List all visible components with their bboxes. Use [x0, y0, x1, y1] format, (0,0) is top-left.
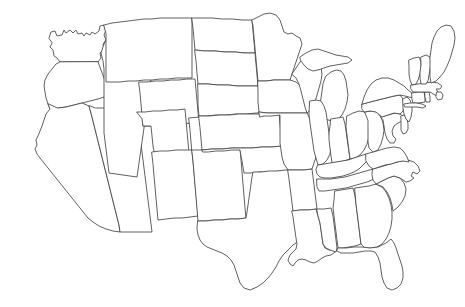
state-north-dakota: North Dakota: [192, 18, 255, 53]
state-rhode-island: Rhode Island: [425, 92, 430, 102]
state-ohio: Ohio: [346, 111, 370, 159]
state-maryland: Maryland: [381, 113, 404, 143]
state-new-mexico: New Mexico: [192, 148, 246, 221]
us-outline-map: WashingtonOregonCaliforniaNevadaIdahoMon…: [0, 0, 465, 307]
state-vermont: Vermont: [409, 57, 421, 85]
state-south-dakota: South Dakota: [195, 50, 258, 86]
state-washington: Washington: [49, 25, 106, 62]
state-michigan-upper: Michigan (Upper Peninsula): [300, 49, 352, 71]
state-kansas: Kansas: [199, 113, 282, 150]
state-long-island: Long Island: [404, 103, 426, 108]
states-layer: WashingtonOregonCaliforniaNevadaIdahoMon…: [35, 13, 455, 290]
state-connecticut: Connecticut: [412, 92, 425, 103]
state-georgia: Georgia: [355, 184, 392, 248]
state-oregon: Oregon: [44, 62, 108, 109]
state-cape-cod: Cape Cod: [436, 92, 443, 100]
state-montana: Montana: [104, 18, 192, 82]
state-arkansas: Arkansas: [288, 169, 317, 211]
state-new-hampshire: New Hampshire: [420, 55, 431, 84]
state-arizona: Arizona: [152, 150, 198, 220]
state-maine: Maine: [430, 25, 455, 83]
us-states-svg: WashingtonOregonCaliforniaNevadaIdahoMon…: [0, 0, 465, 307]
